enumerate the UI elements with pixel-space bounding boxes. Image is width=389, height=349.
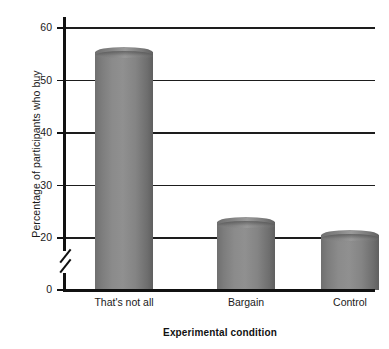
y-tick-label-20: 20	[30, 232, 52, 243]
tick-mark-50	[57, 80, 63, 82]
y-axis-break-icon	[56, 249, 74, 275]
tick-mark-0	[57, 289, 63, 291]
x-axis-line	[63, 289, 375, 292]
bar-chart: Percentage of participants who buy 60504…	[0, 0, 389, 349]
y-tick-label-60: 60	[30, 22, 52, 33]
tick-mark-40	[57, 132, 63, 134]
x-tick-label: That's not all	[54, 296, 194, 308]
y-tick-label-0: 0	[30, 284, 52, 295]
y-tick-label-40: 40	[30, 127, 52, 138]
plot-area	[63, 18, 375, 290]
y-tick-label-50: 50	[30, 75, 52, 86]
bar	[217, 222, 275, 290]
bar	[95, 52, 153, 290]
tick-mark-60	[57, 27, 63, 29]
x-axis-title: Experimental condition	[62, 327, 378, 338]
tick-mark-30	[57, 185, 63, 187]
bar-cap-shading	[321, 234, 379, 243]
bar	[321, 235, 379, 290]
y-axis-title: Percentage of participants who buy	[30, 14, 42, 294]
bar-cap-shading	[95, 51, 153, 60]
bar-cap-shading	[217, 221, 275, 230]
x-tick-label: Control	[280, 296, 389, 308]
y-tick-label-30: 30	[30, 180, 52, 191]
tick-mark-20	[57, 237, 63, 239]
gridline-60	[63, 27, 375, 28]
